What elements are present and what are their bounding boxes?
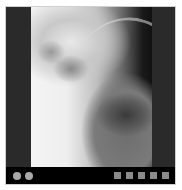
square-icon[interactable] [114,172,121,179]
square-icon[interactable] [126,172,133,179]
circle-icon[interactable] [25,172,33,180]
rib-curve [55,7,152,154]
xray-image[interactable]: L [31,7,152,167]
circle-icon[interactable] [13,172,21,180]
xray-thumbnail-card[interactable]: L [5,6,176,185]
square-icon[interactable] [162,172,169,179]
square-icon[interactable] [150,172,157,179]
thumbnail-toolbar [6,167,175,184]
square-icon[interactable] [138,172,145,179]
